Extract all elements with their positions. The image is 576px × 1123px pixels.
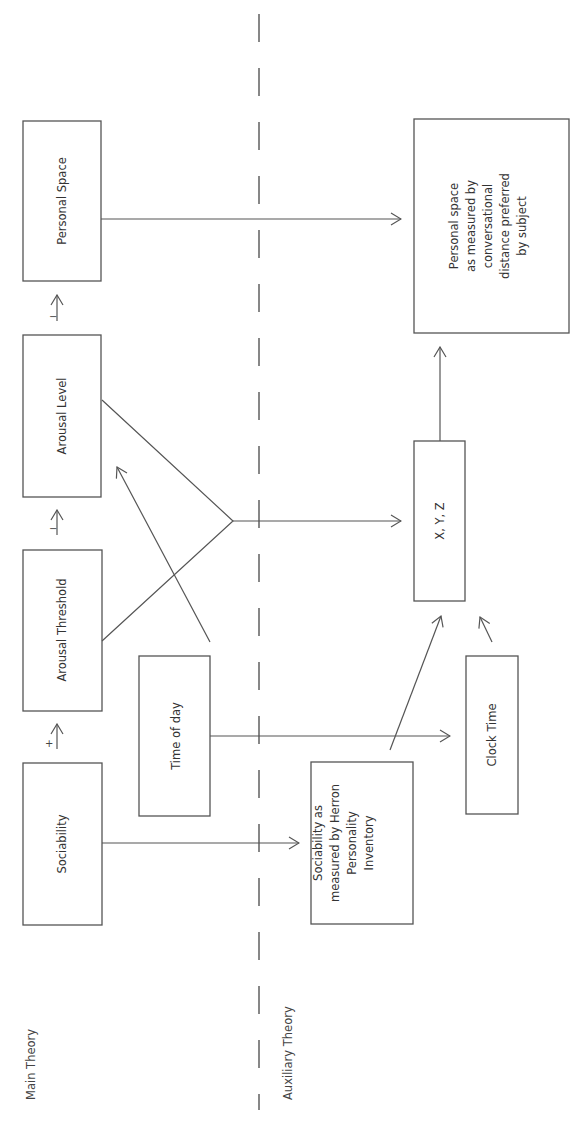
sociability-measured-node: Sociability as measured by Herron Person… xyxy=(311,762,413,924)
minus-sign-2: − xyxy=(49,311,57,322)
ps-measure-line-1: Personal space xyxy=(447,183,461,269)
arousal-level-label: Arousal Level xyxy=(55,378,69,455)
soc-measure-line-3: Personality xyxy=(345,811,359,875)
time-of-day-node: Time of day xyxy=(139,656,210,816)
soc-measure-line-2: measured by Herron xyxy=(328,784,342,902)
clock-time-label: Clock Time xyxy=(485,703,499,766)
sociability-to-threshold-arrow: + xyxy=(45,724,57,749)
arousal-threshold-node: Arousal Threshold xyxy=(23,550,102,711)
theory-diagram: Main Theory Auxiliary Theory Personal Sp… xyxy=(0,0,576,1123)
sociability-measure-to-xyz-arrow xyxy=(390,616,441,750)
ps-measure-line-4: distance preferred xyxy=(498,173,512,279)
soc-measure-line-1: Sociability as xyxy=(311,805,325,881)
level-to-space-arrow: − xyxy=(49,295,57,322)
arousal-threshold-label: Arousal Threshold xyxy=(55,578,69,681)
soc-measure-line-4: Inventory xyxy=(362,815,376,870)
ps-measure-line-2: as measured by xyxy=(464,180,478,272)
time-of-day-label: Time of day xyxy=(169,702,183,771)
threshold-to-level-arrow: − xyxy=(49,510,57,535)
ps-measure-line-3: conversational xyxy=(481,184,495,269)
arousal-level-node: Arousal Level xyxy=(23,335,101,497)
arousal-convergence-lines xyxy=(102,400,233,641)
auxiliary-theory-label: Auxiliary Theory xyxy=(281,1006,295,1100)
personal-space-label: Personal Space xyxy=(55,157,69,245)
personal-space-node: Personal Space xyxy=(23,121,101,281)
main-theory-label: Main Theory xyxy=(24,1029,38,1100)
sociability-node: Sociability xyxy=(23,763,102,925)
ps-measure-line-5: by subject xyxy=(515,196,529,256)
clock-time-node: Clock Time xyxy=(466,656,518,814)
plus-sign: + xyxy=(45,738,53,749)
sociability-label: Sociability xyxy=(55,814,69,873)
xyz-label: X, Y, Z xyxy=(433,502,447,540)
minus-sign: − xyxy=(49,523,57,534)
xyz-node: X, Y, Z xyxy=(414,441,465,601)
personal-space-measured-node: Personal space as measured by conversati… xyxy=(414,119,569,333)
clock-to-xyz-arrow xyxy=(480,617,492,642)
